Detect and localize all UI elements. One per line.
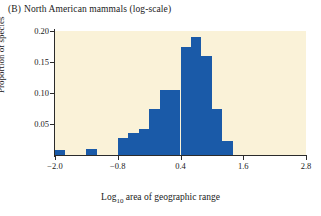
- histogram-bar: [118, 138, 128, 155]
- y-axis: 0.050.100.150.20: [54, 29, 55, 157]
- figure-title: (B)North American mammals (log-scale): [8, 4, 171, 14]
- x-axis-tick: [306, 155, 307, 160]
- histogram-bar: [139, 129, 149, 155]
- histogram-bar: [201, 56, 211, 155]
- y-axis-tick: [50, 124, 55, 125]
- histogram-bar: [160, 90, 170, 155]
- x-axis-label-suffix: area of geographic range: [123, 192, 220, 202]
- panel-label: (B): [8, 4, 21, 14]
- y-axis-label: Proportion of species: [0, 17, 6, 94]
- x-axis-label: Log10 area of geographic range: [0, 192, 321, 205]
- x-axis-tick-label: 2.8: [301, 161, 312, 171]
- chart-figure: (B)North American mammals (log-scale) 0.…: [0, 0, 321, 216]
- histogram-bar: [222, 141, 232, 155]
- plot-area: [55, 31, 306, 155]
- x-axis-tick-label: −2.0: [47, 161, 62, 171]
- y-axis-tick: [50, 93, 55, 94]
- histogram-bar: [181, 47, 191, 156]
- x-axis-tick: [243, 155, 244, 160]
- x-axis-tick: [181, 155, 182, 160]
- panel-title-text: North American mammals (log-scale): [24, 4, 171, 14]
- histogram-bar: [149, 109, 159, 156]
- y-axis-tick-label: 0.15: [34, 57, 49, 67]
- y-axis-tick-label: 0.20: [34, 26, 49, 36]
- histogram-bar: [128, 133, 138, 155]
- y-axis-tick: [50, 62, 55, 63]
- x-axis-tick-label: 0.4: [175, 161, 186, 171]
- x-axis-tick-label: −0.8: [110, 161, 125, 171]
- y-axis-tick: [50, 31, 55, 32]
- histogram-bar: [191, 37, 201, 155]
- histogram-bars: [55, 31, 306, 155]
- histogram-bar: [170, 90, 180, 155]
- y-axis-tick-label: 0.05: [34, 119, 49, 129]
- x-axis-label-prefix: Log: [101, 192, 116, 202]
- x-axis-tick-label: 1.6: [238, 161, 249, 171]
- x-axis: −2.0−0.80.41.62.8: [54, 155, 307, 156]
- x-axis-tick: [55, 155, 56, 160]
- histogram-bar: [212, 109, 222, 156]
- x-axis-tick: [118, 155, 119, 160]
- y-axis-tick-label: 0.10: [34, 88, 49, 98]
